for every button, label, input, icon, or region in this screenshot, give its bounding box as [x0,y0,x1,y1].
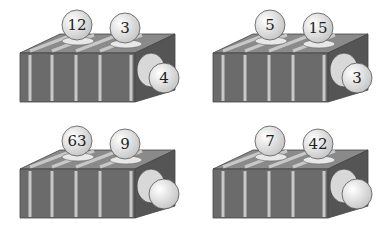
input-ball-a: 7 [255,126,285,156]
input-ball-b: 42 [303,129,333,159]
number-machine-4: 7 42 [193,116,386,232]
input-ball-a: 5 [255,10,285,40]
number-machine-3: 63 9 [0,116,193,232]
machine-box-icon [193,116,386,232]
input-ball-b: 9 [110,129,140,159]
machine-box-icon [0,0,193,116]
machine-box-icon [193,0,386,116]
input-ball-b: 3 [110,13,140,43]
number-machine-1: 12 3 4 [0,0,193,116]
input-ball-a: 63 [62,126,92,156]
output-ball: 3 [342,63,372,93]
number-machine-2: 5 15 3 [193,0,386,116]
output-ball [342,179,372,209]
input-ball-a: 12 [62,10,92,40]
output-ball [149,179,179,209]
input-ball-b: 15 [303,13,333,43]
machine-box-icon [0,116,193,232]
output-ball: 4 [149,63,179,93]
